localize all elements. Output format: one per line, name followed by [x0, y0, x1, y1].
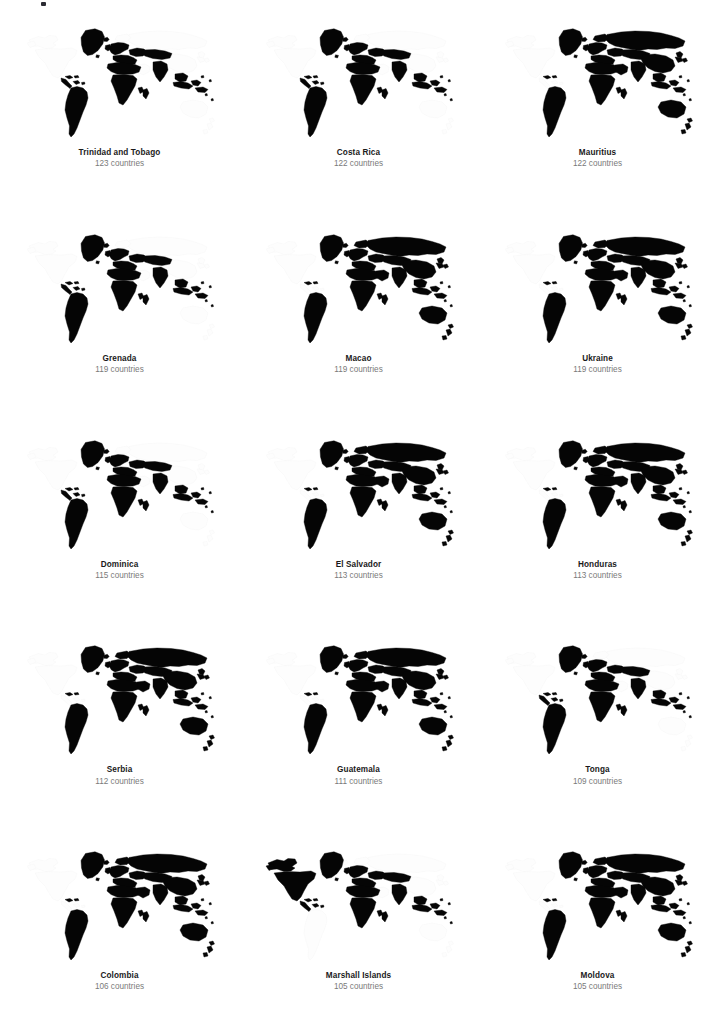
map-region-india: [153, 884, 168, 905]
map-canvas: [25, 847, 215, 969]
country-name: Macao: [334, 354, 383, 364]
map-region-greenland: [559, 440, 583, 469]
map-region-russia: [593, 648, 685, 668]
map-region-australia: [180, 923, 215, 946]
map-region-madagascar: [621, 294, 627, 305]
country-name: Grenada: [95, 354, 144, 364]
map-region-safrica: [589, 898, 622, 929]
map-region-safrica: [350, 75, 383, 106]
map-region-arabia: [615, 270, 628, 281]
map-region-centralamerica: [61, 695, 85, 706]
map-region-madagascar: [143, 89, 149, 100]
map-region-madagascar: [382, 89, 388, 100]
map-region-greenland: [559, 235, 583, 264]
map-region-southamerica: [304, 87, 327, 138]
map-panel[interactable]: Guatemala111 countries: [239, 635, 478, 841]
map-region-northamerica: [505, 653, 555, 696]
map-region-northamerica: [505, 36, 555, 79]
map-region-centralamerica: [61, 901, 85, 912]
map-canvas: [503, 230, 693, 352]
map-region-southamerica: [543, 704, 566, 755]
map-region-india: [392, 473, 407, 494]
map-region-southamerica: [65, 498, 88, 549]
world-map: [264, 230, 454, 352]
map-region-greenland: [320, 29, 344, 58]
map-region-india: [631, 473, 646, 494]
map-panel[interactable]: Colombia106 countries: [0, 841, 239, 1029]
map-region-australia: [180, 100, 215, 123]
map-region-madagascar: [143, 706, 149, 717]
map-region-nafrica: [107, 63, 141, 75]
map-region-safrica: [111, 898, 144, 929]
map-panel[interactable]: Trinidad and Tobago123 countries: [0, 18, 239, 224]
country-count: 111 countries: [335, 777, 383, 787]
map-region-caribbean: [304, 487, 318, 491]
world-map: [25, 24, 215, 146]
map-region-safrica: [350, 486, 383, 517]
map-region-australia: [419, 923, 454, 946]
map-region-northamerica: [266, 653, 316, 696]
map-region-centralasia: [141, 255, 172, 265]
map-panel[interactable]: Serbia112 countries: [0, 635, 239, 841]
country-count: 105 countries: [326, 982, 391, 992]
map-region-nafrica: [585, 886, 619, 898]
map-region-russia: [593, 237, 685, 257]
map-region-australia: [419, 717, 454, 740]
country-name: Mauritius: [573, 148, 622, 158]
map-region-centralamerica: [300, 78, 324, 89]
map-region-southamerica: [304, 910, 327, 961]
world-map: [264, 847, 454, 969]
map-region-nz: [442, 740, 452, 751]
map-panel[interactable]: Tonga109 countries: [478, 635, 717, 841]
map-panel[interactable]: Moldova105 countries: [478, 841, 717, 1029]
map-region-southamerica: [65, 292, 88, 343]
map-panel[interactable]: Mauritius122 countries: [478, 18, 717, 224]
map-panel[interactable]: El Salvador113 countries: [239, 430, 478, 636]
country-count: 119 countries: [334, 365, 383, 375]
map-panel[interactable]: Grenada119 countries: [0, 224, 239, 430]
map-region-safrica: [589, 692, 622, 723]
panel-caption: Tonga109 countries: [573, 765, 622, 787]
map-canvas: [264, 641, 454, 763]
map-region-nz: [203, 740, 213, 751]
country-name: Dominica: [95, 560, 144, 570]
map-region-nafrica: [346, 886, 380, 898]
map-region-australia: [658, 923, 693, 946]
panel-caption: Moldova105 countries: [573, 971, 622, 993]
map-panel[interactable]: Ukraine119 countries: [478, 224, 717, 430]
country-name: El Salvador: [334, 560, 383, 570]
map-region-centralamerica: [539, 78, 563, 89]
map-region-caribbean: [65, 693, 79, 697]
map-region-safrica: [350, 898, 383, 929]
map-region-russia: [593, 443, 685, 463]
country-name: Moldova: [573, 971, 622, 981]
map-region-russia: [593, 854, 685, 874]
map-canvas: [503, 24, 693, 146]
map-region-northamerica: [266, 859, 316, 902]
map-panel[interactable]: Marshall Islands105 countries: [239, 841, 478, 1029]
map-region-australia: [658, 100, 693, 123]
top-edge-marker: [41, 2, 46, 6]
map-panel[interactable]: Macao119 countries: [239, 224, 478, 430]
map-region-india: [153, 678, 168, 699]
map-region-northamerica: [266, 241, 316, 284]
map-region-australia: [180, 717, 215, 740]
map-canvas: [264, 436, 454, 558]
map-region-nz: [681, 946, 691, 957]
map-region-caribbean: [304, 281, 318, 285]
map-region-russia: [354, 443, 446, 463]
map-region-madagascar: [382, 294, 388, 305]
panel-caption: Grenada119 countries: [95, 354, 144, 376]
map-panel[interactable]: Honduras113 countries: [478, 430, 717, 636]
map-region-greenland: [320, 235, 344, 264]
map-panel[interactable]: Dominica115 countries: [0, 430, 239, 636]
map-region-china: [402, 671, 444, 690]
map-region-india: [631, 61, 646, 82]
country-count: 106 countries: [95, 982, 144, 992]
map-region-china: [641, 54, 683, 73]
map-region-greenland: [81, 852, 105, 881]
country-count: 119 countries: [573, 365, 622, 375]
map-panel[interactable]: Costa Rica122 countries: [239, 18, 478, 224]
map-region-caribbean: [65, 899, 79, 903]
map-region-india: [392, 267, 407, 288]
